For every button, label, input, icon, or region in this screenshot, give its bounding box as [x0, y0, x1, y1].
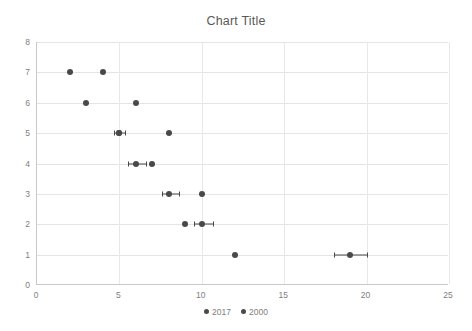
chart-legend: 20172000 [0, 306, 472, 317]
gridline-horizontal [37, 224, 448, 225]
legend-item-label: 2017 [212, 307, 231, 317]
data-point[interactable] [182, 221, 188, 227]
error-bar-cap [146, 161, 147, 166]
gridline-vertical [119, 42, 120, 284]
gridline-horizontal [37, 164, 448, 165]
data-point[interactable] [199, 191, 205, 197]
data-point[interactable] [67, 69, 73, 75]
x-axis-tick-label: 5 [103, 290, 133, 300]
error-bar-cap [367, 252, 368, 257]
y-axis-tick-label: 4 [4, 159, 30, 169]
legend-marker-icon [204, 309, 209, 314]
x-axis-tick-label: 0 [21, 290, 51, 300]
x-axis-tick-label: 25 [433, 290, 463, 300]
data-point[interactable] [166, 191, 172, 197]
legend-item-2017[interactable]: 2017 [204, 306, 231, 317]
gridline-vertical [284, 42, 285, 284]
legend-item-2000[interactable]: 2000 [241, 306, 268, 317]
y-axis-tick-label: 6 [4, 98, 30, 108]
y-axis-tick-label: 0 [4, 280, 30, 290]
data-point[interactable] [149, 161, 155, 167]
error-bar-cap [334, 252, 335, 257]
data-point[interactable] [116, 130, 122, 136]
error-bar-cap [213, 222, 214, 227]
gridline-horizontal [37, 255, 448, 256]
error-bar-cap [194, 222, 195, 227]
error-bar-cap [162, 191, 163, 196]
x-axis-tick-label: 15 [268, 290, 298, 300]
error-bar-cap [114, 131, 115, 136]
error-bar-cap [179, 191, 180, 196]
scatter-chart: Chart Title 012345678 0510152025 2017200… [0, 0, 472, 331]
y-axis-tick-label: 7 [4, 67, 30, 77]
y-axis-tick-label: 3 [4, 189, 30, 199]
gridline-vertical [367, 42, 368, 284]
gridline-horizontal [37, 42, 448, 43]
gridline-horizontal [37, 194, 448, 195]
data-point[interactable] [199, 221, 205, 227]
gridline-horizontal [37, 72, 448, 73]
data-point[interactable] [133, 100, 139, 106]
gridline-horizontal [37, 103, 448, 104]
data-point[interactable] [232, 252, 238, 258]
data-point[interactable] [133, 161, 139, 167]
legend-marker-icon [241, 309, 246, 314]
error-bar-cap [128, 161, 129, 166]
error-bar-cap [125, 131, 126, 136]
y-axis-tick-label: 8 [4, 37, 30, 47]
gridline-vertical [449, 42, 450, 284]
data-point[interactable] [166, 130, 172, 136]
y-axis-tick-label: 5 [4, 128, 30, 138]
x-axis-tick-label: 10 [186, 290, 216, 300]
data-point[interactable] [100, 69, 106, 75]
x-axis-tick-label: 20 [351, 290, 381, 300]
gridline-vertical [202, 42, 203, 284]
data-point[interactable] [83, 100, 89, 106]
legend-item-label: 2000 [249, 307, 268, 317]
plot-area [36, 42, 448, 285]
y-axis-tick-label: 1 [4, 250, 30, 260]
data-point[interactable] [347, 252, 353, 258]
chart-title: Chart Title [0, 14, 472, 28]
gridline-horizontal [37, 133, 448, 134]
y-axis-tick-label: 2 [4, 219, 30, 229]
